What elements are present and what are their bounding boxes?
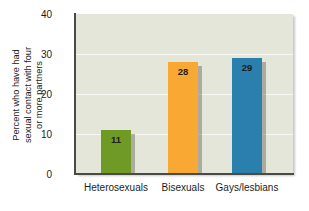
bar-shadow-heterosexuals [131, 134, 135, 174]
bar-heterosexuals[interactable]: 11 [101, 130, 131, 174]
gridline-30 [76, 54, 293, 55]
bar-shadow-bisexuals [198, 66, 202, 174]
y-tick-label-20: 20 [4, 89, 56, 100]
bar-value-bisexuals: 28 [168, 66, 198, 77]
y-tick-label-10: 10 [4, 129, 56, 140]
x-tick-label-heterosexuals: Heterosexuals [84, 182, 148, 193]
bar-shadow-gays-lesbians [262, 62, 266, 174]
bar-body-gays-lesbians [232, 58, 262, 174]
bar-body-bisexuals [168, 62, 198, 174]
x-tick-label-gays-lesbians: Gays/lesbians [216, 182, 279, 193]
x-tick-label-bisexuals: Bisexuals [162, 182, 205, 193]
bar-gays-lesbians[interactable]: 29 [232, 58, 262, 174]
bar-chart-figure: Percent who have had sexual contact with… [0, 0, 309, 211]
y-axis-line [74, 13, 76, 175]
x-axis-line [74, 173, 294, 175]
bar-value-gays-lesbians: 29 [232, 62, 262, 73]
bar-bisexuals[interactable]: 28 [168, 62, 198, 174]
y-tick-label-40: 40 [4, 9, 56, 20]
y-tick-label-30: 30 [4, 49, 56, 60]
y-tick-label-0: 0 [4, 169, 56, 180]
bar-value-heterosexuals: 11 [101, 134, 131, 145]
plot-area: 11 28 29 [76, 14, 293, 174]
